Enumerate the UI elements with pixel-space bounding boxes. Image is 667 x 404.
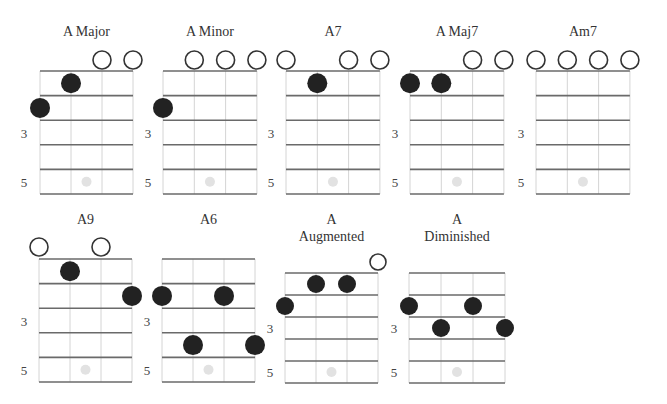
open-string-icon — [277, 51, 295, 69]
finger-dot — [400, 73, 420, 93]
fret-number-label: 5 — [21, 363, 28, 378]
finger-dot — [214, 286, 234, 306]
chord-title: Diminished — [424, 229, 489, 244]
chord-title: A Maj7 — [436, 24, 478, 39]
open-string-icon — [558, 51, 576, 69]
finger-dot — [400, 297, 418, 315]
fret-marker-dot — [81, 365, 91, 375]
finger-dot — [183, 335, 203, 355]
fret-number-label: 5 — [144, 363, 151, 378]
finger-dot — [60, 261, 80, 281]
finger-dot — [307, 275, 325, 293]
open-string-icon — [93, 51, 111, 69]
finger-dot — [61, 73, 81, 93]
open-string-icon — [464, 51, 482, 69]
finger-dot — [432, 319, 450, 337]
open-string-icon — [340, 51, 358, 69]
chord-title: Am7 — [569, 24, 597, 39]
fret-number-label: 3 — [144, 314, 151, 329]
fret-number-label: 5 — [267, 365, 274, 380]
finger-dot — [338, 275, 356, 293]
chord-diagram-a9: A935 — [21, 212, 142, 382]
fret-marker-dot — [452, 177, 462, 187]
fret-marker-dot — [328, 177, 338, 187]
chord-diagram-a7: A735 — [268, 24, 389, 194]
open-string-icon — [370, 254, 386, 270]
chord-title: A Major — [63, 24, 110, 39]
chord-title: A6 — [200, 212, 217, 227]
fret-number-label: 3 — [392, 126, 399, 141]
chord-diagram-a6: A635 — [144, 212, 265, 382]
open-string-icon — [621, 51, 639, 69]
finger-dot — [496, 319, 514, 337]
fret-number-label: 3 — [145, 126, 152, 141]
fret-marker-dot — [204, 365, 214, 375]
open-string-icon — [371, 51, 389, 69]
fret-number-label: 3 — [267, 321, 274, 336]
fret-number-label: 3 — [268, 126, 275, 141]
fret-number-label: 5 — [391, 365, 398, 380]
finger-dot — [307, 73, 327, 93]
finger-dot — [122, 286, 142, 306]
open-string-icon — [92, 238, 110, 256]
open-string-icon — [248, 51, 266, 69]
chord-diagram-a-major: A Major35 — [21, 24, 142, 194]
finger-dot — [30, 98, 50, 118]
chord-title: A Minor — [186, 24, 234, 39]
finger-dot — [431, 73, 451, 93]
chord-diagram-a-diminished: ADiminished35 — [391, 212, 514, 383]
finger-dot — [464, 297, 482, 315]
finger-dot — [152, 286, 172, 306]
chord-chart: A Major35A Minor35A735A Maj735Am735A935A… — [0, 0, 667, 404]
fret-marker-dot — [452, 367, 462, 377]
chord-title: A — [452, 212, 463, 227]
fret-marker-dot — [327, 367, 337, 377]
fret-number-label: 3 — [391, 321, 398, 336]
fret-marker-dot — [578, 177, 588, 187]
chord-diagram-a-minor: A Minor35 — [145, 24, 266, 194]
open-string-icon — [495, 51, 513, 69]
open-string-icon — [590, 51, 608, 69]
fret-number-label: 3 — [21, 314, 28, 329]
chord-diagram-a-augmented: AAugmented35 — [267, 212, 386, 383]
finger-dot — [153, 98, 173, 118]
fret-number-label: 3 — [21, 126, 28, 141]
fret-number-label: 5 — [268, 175, 275, 190]
fret-number-label: 5 — [518, 175, 525, 190]
fret-marker-dot — [82, 177, 92, 187]
chord-diagram-a-maj7: A Maj735 — [392, 24, 513, 194]
finger-dot — [245, 335, 265, 355]
chord-title: A7 — [324, 24, 341, 39]
chord-title: A — [326, 212, 337, 227]
chord-diagram-am7: Am735 — [518, 24, 639, 194]
fret-number-label: 5 — [21, 175, 28, 190]
open-string-icon — [217, 51, 235, 69]
fret-number-label: 3 — [518, 126, 525, 141]
open-string-icon — [124, 51, 142, 69]
chord-title: Augmented — [299, 229, 364, 244]
finger-dot — [276, 297, 294, 315]
fret-number-label: 5 — [392, 175, 399, 190]
fret-marker-dot — [205, 177, 215, 187]
chord-title: A9 — [77, 212, 94, 227]
fret-number-label: 5 — [145, 175, 152, 190]
open-string-icon — [185, 51, 203, 69]
open-string-icon — [30, 238, 48, 256]
open-string-icon — [527, 51, 545, 69]
